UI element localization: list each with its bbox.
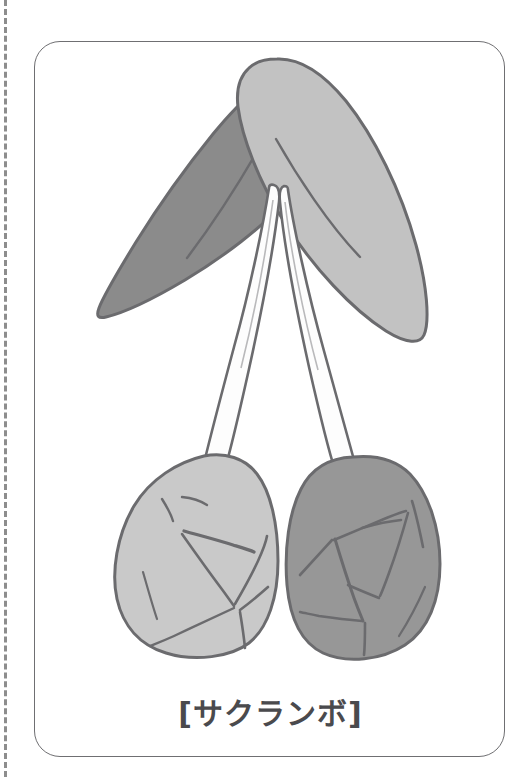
- cherry-illustration-svg: [35, 42, 506, 687]
- flashcard-frame[interactable]: [サクランボ]: [34, 41, 505, 757]
- cherry-right: [286, 457, 440, 660]
- caption-label: [サクランボ]: [178, 697, 362, 730]
- dashed-cut-line: [4, 0, 7, 777]
- cherry-illustration: [35, 42, 506, 687]
- cherry-left: [115, 455, 278, 658]
- flashcard-page: [サクランボ]: [0, 0, 526, 777]
- card-caption: [サクランボ]: [35, 687, 506, 758]
